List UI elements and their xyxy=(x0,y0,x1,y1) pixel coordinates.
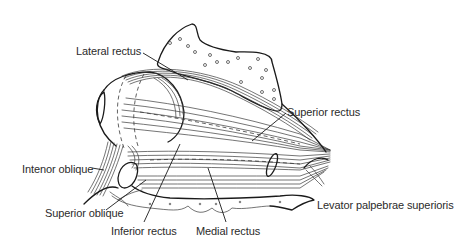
trochlea xyxy=(264,152,280,177)
label-medial-rectus: Medial rectus xyxy=(196,225,260,237)
label-inferior-oblique: Intenor oblique xyxy=(22,163,93,175)
label-superior-rectus: Superior rectus xyxy=(287,106,360,118)
label-levator-palpebrae-superioris: Levator palpebrae superioris xyxy=(317,199,454,211)
inferior-rectus-muscle xyxy=(138,166,328,188)
eye-muscle-diagram: Lateral rectus Superior rectus Intenor o… xyxy=(0,0,474,248)
medial-rectus-muscle xyxy=(128,151,330,170)
leader-inferior-oblique xyxy=(92,168,104,170)
bone-knob xyxy=(118,163,138,188)
leader-superior-oblique xyxy=(106,180,146,210)
label-inferior-rectus: Inferior rectus xyxy=(111,225,177,237)
label-lateral-rectus: Lateral rectus xyxy=(76,45,141,57)
label-superior-oblique: Superior oblique xyxy=(45,207,124,219)
